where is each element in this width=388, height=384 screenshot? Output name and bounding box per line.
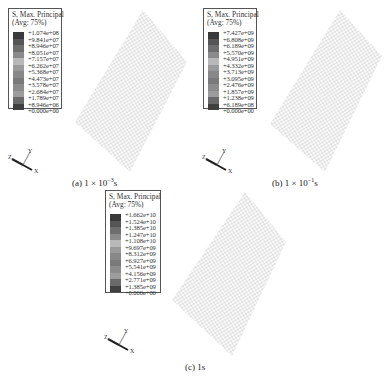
caption-panel-b: (b) 1 × 10−1s — [272, 177, 318, 188]
mesh-panel-b — [270, 10, 382, 172]
caption-panel-c: (c) 1s — [185, 362, 205, 372]
x-axis-label: X — [228, 168, 233, 174]
x-axis-label: X — [34, 168, 39, 174]
axis-triad-icon: Y Z X — [8, 148, 42, 174]
z-axis-label: Z — [202, 154, 206, 160]
mesh-panel-c — [172, 192, 286, 356]
z-axis-label: Z — [8, 154, 12, 160]
mesh-panel-a — [75, 10, 187, 172]
z-axis-label: Z — [104, 334, 108, 340]
axis-triad-icon: Y Z X — [104, 328, 138, 354]
y-axis-label: Y — [28, 148, 33, 154]
y-axis-label: Y — [222, 148, 227, 154]
caption-panel-a: (a) 1 × 10−3s — [72, 177, 117, 188]
mesh-plots — [0, 0, 388, 384]
axis-triad-icon: Y Z X — [202, 148, 236, 174]
x-axis-label: X — [130, 348, 135, 354]
y-axis-label: Y — [124, 328, 129, 334]
